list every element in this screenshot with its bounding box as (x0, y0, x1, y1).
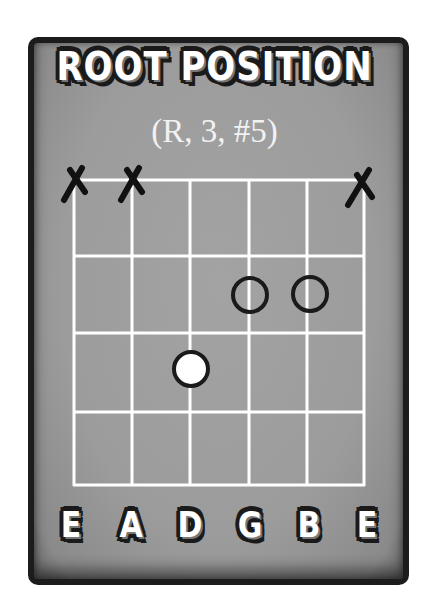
string-label-4: D (170, 495, 210, 555)
string-label-1: E (347, 495, 387, 555)
fretboard-grid (73, 180, 365, 486)
mute-x-icon-string-1 (348, 170, 372, 205)
string-label-2: B (289, 495, 329, 555)
sharp-fifth-marker-icon (293, 277, 327, 311)
string-names: E A D G B E (0, 500, 429, 560)
root-marker-icon (174, 352, 208, 386)
string-label-3: G (230, 495, 270, 555)
string-label-5: A (111, 495, 151, 555)
string-label-6: E (51, 495, 91, 555)
